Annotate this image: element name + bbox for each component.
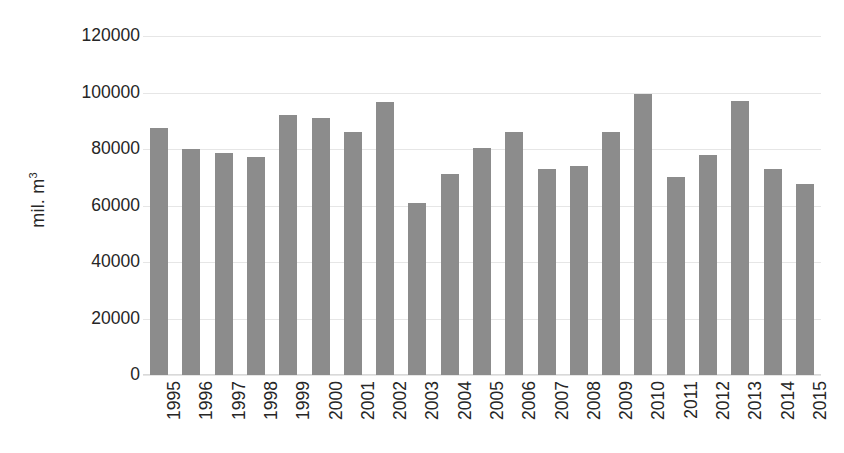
bar [247, 157, 265, 375]
x-axis-tick-label: 2014 [780, 381, 798, 420]
x-axis-tick-label: 2011 [683, 381, 701, 419]
bar [215, 153, 233, 375]
bar [667, 177, 685, 375]
bar [634, 94, 652, 375]
bar [570, 166, 588, 375]
x-axis-tick-label: 1996 [198, 381, 216, 420]
bar [376, 102, 394, 375]
x-axis-tick-label: 2013 [747, 381, 765, 420]
x-axis-tick-label: 1997 [231, 381, 249, 420]
bar [764, 169, 782, 375]
bar [182, 149, 200, 375]
bar-series [143, 36, 821, 375]
x-axis-tick-label: 2005 [489, 381, 507, 420]
y-axis-tick-label: 60000 [58, 197, 140, 215]
bar [408, 203, 426, 375]
x-axis-tick-label: 2000 [328, 381, 346, 420]
bar [538, 169, 556, 375]
bar [731, 101, 749, 375]
y-axis-tick-label: 100000 [58, 84, 140, 102]
bar [150, 128, 168, 375]
bar [796, 184, 814, 375]
y-axis-tick-label: 120000 [58, 27, 140, 45]
x-axis-tick-label: 2006 [521, 381, 539, 420]
y-axis-tick-labels: 020000400006000080000100000120000 [58, 0, 140, 453]
x-axis-tick-label: 2004 [457, 381, 475, 420]
bar [441, 174, 459, 375]
x-axis-tick-label: 2002 [392, 381, 410, 420]
x-axis-tick-labels: 1995199619971998199920002001200220032004… [143, 375, 821, 453]
x-axis-tick-label: 1999 [295, 381, 313, 420]
x-axis-tick-label: 2001 [360, 381, 378, 420]
y-axis-title-superscript: 3 [27, 172, 39, 178]
plot-area [143, 36, 821, 375]
bar-chart: mil. m3 02000040000600008000010000012000… [0, 0, 844, 453]
x-axis-tick-label: 1995 [166, 381, 184, 420]
y-axis-tick-label: 20000 [58, 310, 140, 328]
bar [602, 132, 620, 375]
x-axis-tick-label: 2008 [586, 381, 604, 420]
x-axis-tick-label: 1998 [263, 381, 281, 420]
y-axis-tick-label: 40000 [58, 253, 140, 271]
bar [279, 115, 297, 375]
x-axis-tick-label: 2012 [715, 381, 733, 420]
y-axis-title: mil. m3 [28, 70, 50, 330]
y-axis-tick-label: 0 [58, 366, 140, 384]
bar [699, 155, 717, 375]
bar [312, 118, 330, 375]
y-axis-title-text: mil. m [28, 179, 48, 228]
bar [344, 132, 362, 375]
bar [505, 132, 523, 375]
x-axis-tick-label: 2010 [650, 381, 668, 420]
bar [473, 148, 491, 375]
x-axis-tick-label: 2015 [812, 381, 830, 420]
x-axis-tick-label: 2003 [424, 381, 442, 420]
x-axis-tick-label: 2009 [618, 381, 636, 420]
x-axis-tick-label: 2007 [554, 381, 572, 420]
y-axis-tick-label: 80000 [58, 140, 140, 158]
